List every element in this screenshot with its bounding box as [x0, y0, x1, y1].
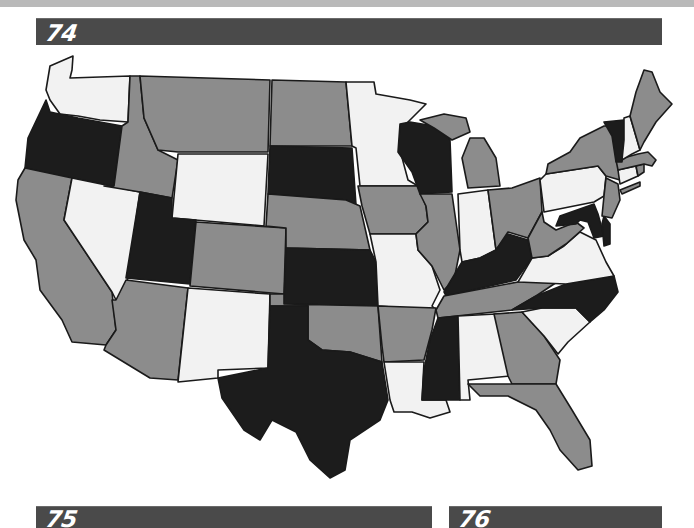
- section-number: 74: [44, 20, 79, 46]
- state-ME: [630, 70, 672, 150]
- state-NM: [178, 288, 270, 382]
- section-header-74: 74: [36, 18, 662, 45]
- page-top-strip: [0, 0, 694, 7]
- section-number: 75: [44, 506, 79, 528]
- state-MT: [140, 76, 270, 152]
- state-ND: [270, 80, 352, 146]
- state-WA: [46, 56, 130, 122]
- state-WY: [172, 154, 268, 226]
- us-map: [0, 50, 694, 500]
- state-NY-long-island: [620, 182, 640, 194]
- state-IA: [358, 186, 428, 234]
- state-DE: [602, 216, 610, 246]
- state-NJ: [602, 178, 620, 218]
- state-FL: [468, 384, 592, 470]
- state-CO: [190, 222, 286, 294]
- section-header-75: 75: [36, 506, 432, 528]
- section-header-76: 76: [449, 506, 662, 528]
- state-KS: [284, 248, 378, 306]
- section-number: 76: [457, 506, 492, 528]
